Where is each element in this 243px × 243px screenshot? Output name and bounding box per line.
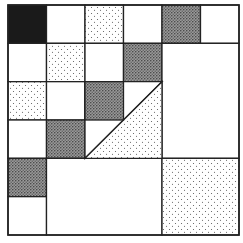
- cell-white: [162, 43, 239, 158]
- cell-white: [8, 197, 47, 235]
- cell-light: [162, 158, 239, 235]
- cell-light: [8, 82, 47, 120]
- cell-white: [47, 5, 86, 43]
- cell-dark: [85, 82, 124, 120]
- cell-white: [8, 120, 47, 158]
- cell-white: [124, 5, 163, 43]
- cell-light: [47, 43, 86, 81]
- cell-black: [8, 5, 47, 43]
- cell-white: [201, 5, 240, 43]
- cell-dark: [47, 120, 86, 158]
- cell-white: [8, 43, 47, 81]
- cell-white: [85, 43, 124, 81]
- cell-light: [85, 5, 124, 43]
- diagonal-triangle: [85, 82, 162, 159]
- cell-dark: [8, 158, 47, 196]
- cell-white: [47, 82, 86, 120]
- cell-white: [47, 158, 163, 235]
- cell-dark: [124, 43, 163, 81]
- cell-dark: [162, 5, 201, 43]
- quilt-grid-diagram: [0, 0, 243, 243]
